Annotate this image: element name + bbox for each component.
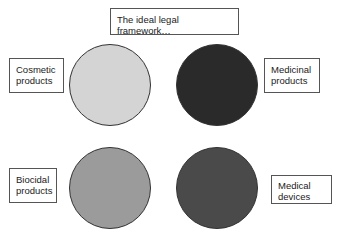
medical-devices-circle: [176, 147, 258, 229]
biocidal-label-box: Biocidal products: [9, 168, 57, 203]
medicinal-label-box: Medicinal products: [264, 58, 320, 93]
title-text: The ideal legal framework…: [117, 14, 179, 36]
medicinal-circle: [176, 44, 258, 126]
cosmetic-circle: [69, 44, 151, 126]
medical-devices-label-line1: Medical: [278, 180, 325, 191]
cosmetic-label-line1: Cosmetic: [16, 64, 57, 75]
medical-devices-label-line2: devices: [278, 191, 325, 202]
cosmetic-label-box: Cosmetic products: [9, 58, 64, 93]
biocidal-circle: [69, 147, 151, 229]
cosmetic-label-line2: products: [16, 75, 57, 86]
medical-devices-label-box: Medical devices: [271, 175, 332, 204]
biocidal-label-line2: products: [16, 185, 50, 196]
medicinal-label-line1: Medicinal: [271, 64, 313, 75]
title-box: The ideal legal framework…: [110, 8, 239, 35]
biocidal-label-line1: Biocidal: [16, 174, 50, 185]
medicinal-label-line2: products: [271, 75, 313, 86]
